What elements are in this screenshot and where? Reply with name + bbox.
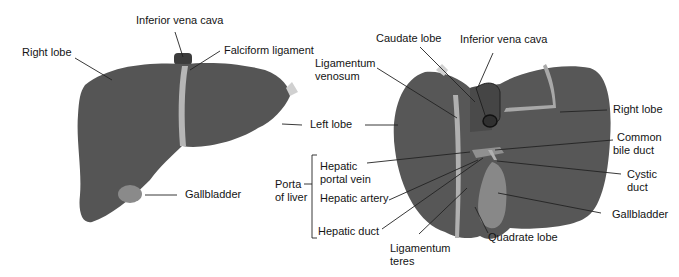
label-gallbladder-posterior: Gallbladder [612,208,668,221]
label-falciform-ligament: Falciform ligament [224,44,314,57]
label-lig-venosum-2: venosum [315,70,360,83]
label-cystic-1: Cystic [627,168,657,181]
label-porta-2: of liver [275,191,307,204]
label-right-lobe-posterior: Right lobe [613,103,663,116]
label-ivc-posterior: Inferior vena cava [460,33,547,46]
label-gallbladder-anterior: Gallbladder [185,188,241,201]
ivc-stub-anterior [174,53,192,65]
label-porta-1: Porta [275,178,301,191]
label-caudate-lobe: Caudate lobe [376,32,441,45]
label-lig-teres-1: Ligamentum [390,242,451,255]
label-cystic-2: duct [627,181,648,194]
label-ivc-anterior: Inferior vena cava [136,14,223,27]
posterior-liver [394,64,611,239]
label-right-lobe-anterior: Right lobe [22,46,72,59]
label-left-lobe: Left lobe [310,118,352,131]
label-quadrate-lobe: Quadrate lobe [488,231,558,244]
label-lig-teres-2: teres [390,255,414,268]
label-hepatic-duct: Hepatic duct [318,225,379,238]
label-common-bile-1: Common [617,131,662,144]
label-common-bile-2: bile duct [613,144,654,157]
label-hepatic-artery: Hepatic artery [320,192,388,205]
label-hpv-2: portal vein [320,173,371,186]
label-lig-venosum-1: Ligamentum [315,57,376,70]
gallbladder-anterior [118,185,142,203]
ivc-opening [483,115,497,127]
label-hpv-1: Hepatic [320,160,357,173]
